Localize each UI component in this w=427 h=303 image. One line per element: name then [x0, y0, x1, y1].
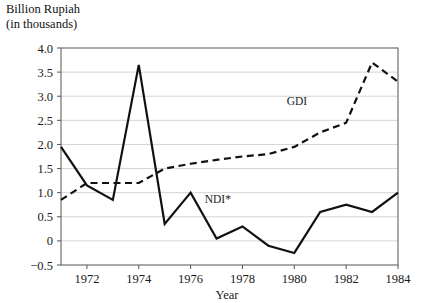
chart-container: Billion Rupiah (in thousands) 4.03.53.02… [0, 0, 427, 303]
series-label-gdi: GDI [287, 95, 308, 107]
series-line-gdi [61, 62, 398, 199]
x-tick-label: 1972 [74, 272, 99, 286]
x-tick-label: 1980 [282, 272, 307, 286]
x-tick-label: 1976 [178, 272, 203, 286]
gridlines-group [61, 72, 398, 241]
y-tick-label: −0.5 [30, 259, 53, 273]
series-label-ndi: NDI* [205, 193, 231, 205]
y-tick-label: 0.5 [37, 210, 53, 224]
x-tick-label: 1978 [230, 272, 255, 286]
y-tick-label: 1.0 [37, 186, 53, 200]
series-annotations: NDI*GDI [205, 95, 308, 205]
y-tick-label: 1.5 [37, 162, 53, 176]
series-lines [61, 62, 398, 252]
y-tick-label: 4.0 [37, 42, 53, 56]
y-tick-label: 3.5 [37, 66, 53, 80]
line-chart-plot: 4.03.53.02.52.01.51.00.50−0.5 1972197419… [0, 0, 427, 303]
x-axis-ticks: 1972197419761978198019821984 [74, 265, 411, 286]
y-tick-label: 2.0 [37, 138, 53, 152]
x-tick-label: 1974 [126, 272, 152, 286]
y-tick-label: 2.5 [37, 114, 53, 128]
y-axis-ticks: 4.03.53.02.52.01.51.00.50−0.5 [30, 42, 61, 273]
x-tick-label: 1984 [386, 272, 412, 286]
x-axis-title: Year [215, 288, 239, 302]
y-tick-label: 0 [47, 234, 53, 248]
y-tick-label: 3.0 [37, 90, 53, 104]
x-tick-label: 1982 [334, 272, 359, 286]
